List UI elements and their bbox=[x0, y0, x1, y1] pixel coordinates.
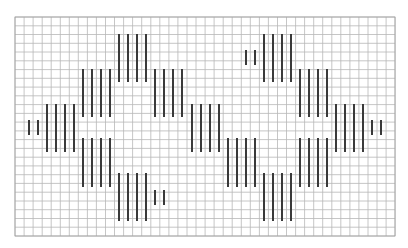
pattern-grid bbox=[0, 0, 408, 248]
stitch-pattern-chart bbox=[0, 0, 408, 248]
grid-lines bbox=[15, 17, 395, 236]
